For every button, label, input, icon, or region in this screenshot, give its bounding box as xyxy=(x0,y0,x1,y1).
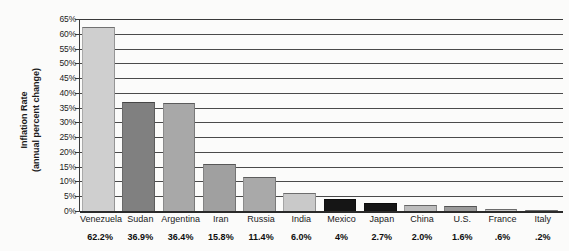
category-label: India xyxy=(281,213,321,225)
y-axis-tick-label: 40% xyxy=(44,88,76,98)
x-axis-labels: Venezuela62.2%Sudan36.9%Argentina36.4%Ir… xyxy=(80,213,563,251)
x-axis-column: U.S.1.6% xyxy=(442,213,482,243)
bar-japan xyxy=(364,203,397,211)
category-label: Italy xyxy=(523,213,563,225)
bar-mexico xyxy=(324,199,357,211)
y-axis-tick xyxy=(75,122,80,123)
x-axis-column: Russia11.4% xyxy=(241,213,281,243)
y-axis-tick xyxy=(75,181,80,182)
category-label: Argentina xyxy=(161,213,201,225)
y-axis-tick-label: 5% xyxy=(44,191,76,201)
value-label: 1.6% xyxy=(442,231,482,243)
value-label: 36.9% xyxy=(120,231,160,243)
gridline xyxy=(80,78,563,79)
y-axis-tick xyxy=(75,152,80,153)
bar-sudan xyxy=(122,102,155,211)
y-axis-tick xyxy=(75,93,80,94)
value-label: 4% xyxy=(322,231,362,243)
value-label: 2.7% xyxy=(362,231,402,243)
y-axis-tick-label: 0% xyxy=(44,206,76,216)
gridline xyxy=(80,19,563,20)
y-axis-tick-labels: 65%60%55%50%45%40%35%30%25%20%15%10%5%0% xyxy=(40,0,76,251)
category-label: Russia xyxy=(241,213,281,225)
category-label: Venezuela xyxy=(80,213,120,225)
y-axis-tick-label: 30% xyxy=(44,117,76,127)
category-label: China xyxy=(402,213,442,225)
x-axis-column: Sudan36.9% xyxy=(120,213,160,243)
y-axis-tick xyxy=(75,63,80,64)
value-label: 6.0% xyxy=(281,231,321,243)
y-axis-tick xyxy=(75,196,80,197)
value-label: .2% xyxy=(523,231,563,243)
y-axis-tick xyxy=(75,49,80,50)
y-axis-tick-label: 65% xyxy=(44,14,76,24)
value-label: 15.8% xyxy=(201,231,241,243)
x-axis-column: Italy.2% xyxy=(523,213,563,243)
y-axis-tick xyxy=(75,108,80,109)
bar-iran xyxy=(203,164,236,211)
value-label: 36.4% xyxy=(161,231,201,243)
x-axis-column: France.6% xyxy=(483,213,523,243)
category-label: France xyxy=(483,213,523,225)
x-axis-column: Argentina36.4% xyxy=(161,213,201,243)
plot-area xyxy=(80,19,563,211)
y-axis-tick-label: 25% xyxy=(44,132,76,142)
gridline xyxy=(80,63,563,64)
gridline xyxy=(80,34,563,35)
gridline xyxy=(80,49,563,50)
y-axis-tick-label: 45% xyxy=(44,73,76,83)
y-axis-tick-label: 50% xyxy=(44,58,76,68)
y-axis-tick-label: 55% xyxy=(44,44,76,54)
inflation-rate-bar-chart: Inflation Rate (annual percent change) 6… xyxy=(0,0,569,251)
x-axis-column: Mexico4% xyxy=(322,213,362,243)
y-axis-tick-label: 35% xyxy=(44,103,76,113)
value-label: 62.2% xyxy=(80,231,120,243)
x-axis-column: Iran15.8% xyxy=(201,213,241,243)
x-axis-column: Japan2.7% xyxy=(362,213,402,243)
y-axis-tick xyxy=(75,167,80,168)
category-label: Iran xyxy=(201,213,241,225)
category-label: Mexico xyxy=(322,213,362,225)
x-axis-column: Venezuela62.2% xyxy=(80,213,120,243)
category-label: Japan xyxy=(362,213,402,225)
bar-russia xyxy=(243,177,276,211)
y-axis-tick xyxy=(75,78,80,79)
y-axis-tick-label: 15% xyxy=(44,162,76,172)
y-axis-tick-label: 20% xyxy=(44,147,76,157)
y-axis-tick xyxy=(75,19,80,20)
category-label: Sudan xyxy=(120,213,160,225)
value-label: 2.0% xyxy=(402,231,442,243)
gridline xyxy=(80,93,563,94)
x-axis-column: India6.0% xyxy=(281,213,321,243)
y-axis-tick-label: 10% xyxy=(44,176,76,186)
bar-argentina xyxy=(163,103,196,211)
y-axis-tick xyxy=(75,34,80,35)
bar-india xyxy=(283,193,316,211)
y-axis-tick xyxy=(75,137,80,138)
category-label: U.S. xyxy=(442,213,482,225)
value-label: .6% xyxy=(483,231,523,243)
value-label: 11.4% xyxy=(241,231,281,243)
y-axis-title-line1: Inflation Rate xyxy=(19,68,31,172)
y-axis-tick-label: 60% xyxy=(44,29,76,39)
bar-venezuela xyxy=(82,27,115,211)
x-axis-column: China2.0% xyxy=(402,213,442,243)
